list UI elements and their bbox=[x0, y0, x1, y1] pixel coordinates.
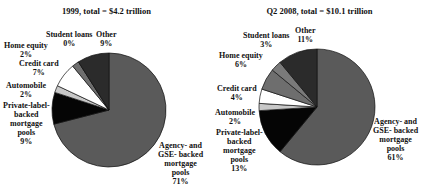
label-private-label: Private-label- backed mortgage pools 9% bbox=[3, 101, 50, 146]
label-home-equity: Home equity 2% bbox=[4, 41, 48, 59]
label-other: Other 11% bbox=[295, 26, 315, 44]
label-student-loans: Student loans 3% bbox=[243, 31, 289, 49]
label-student-loans: Student loans 0% bbox=[46, 30, 92, 48]
label-automobile: Automobile 2% bbox=[215, 108, 255, 126]
label-automobile: Automobile 2% bbox=[6, 81, 46, 99]
pie-panel-q2-2008: Q2 2008, total = $10.1 trillion Student … bbox=[213, 0, 426, 189]
label-agency-gse: Agency- and GSE- backed mortgage pools 7… bbox=[158, 141, 203, 186]
label-credit-card: Credit card 4% bbox=[217, 84, 257, 102]
label-agency-gse: Agency- and GSE- backed mortgage pools 6… bbox=[373, 117, 418, 162]
label-private-label: Private-label- backed mortgage pools 13% bbox=[216, 128, 263, 173]
label-other: Other 9% bbox=[96, 30, 116, 48]
pie-panel-1999: 1999, total = $4.2 trillion Student loan… bbox=[0, 0, 213, 189]
label-credit-card: Credit card 7% bbox=[19, 59, 59, 77]
label-home-equity: Home equity 6% bbox=[219, 51, 263, 69]
